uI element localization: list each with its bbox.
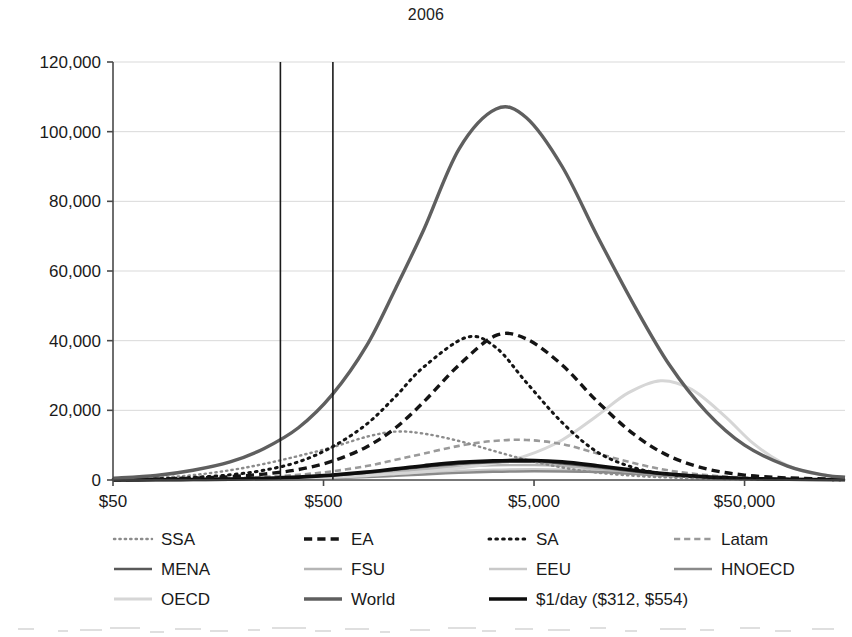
- legend-mena-swatch-icon: [112, 562, 154, 576]
- y-tick-label: 100,000: [40, 123, 101, 142]
- legend-ssa-label: SSA: [161, 531, 195, 548]
- legend-row-3: OECDWorld$1/day ($312, $554): [0, 584, 852, 614]
- y-axis-tick-labels: 020,00040,00060,00080,000100,000120,000: [40, 53, 101, 490]
- legend-hnoecd-swatch-icon: [672, 562, 714, 576]
- x-axis-tick-labels: $50$500$5,000$50,000: [99, 492, 775, 511]
- legend-eeu[interactable]: EEU: [487, 554, 571, 584]
- series-lines: [113, 107, 845, 480]
- legend-row-1: SSAEASALatam: [0, 524, 852, 554]
- legend-ea[interactable]: EA: [302, 524, 374, 554]
- chart-legend: SSAEASALatam MENAFSUEEUHNOECD OECDWorld$…: [0, 522, 852, 622]
- legend-sa-swatch-icon: [487, 532, 529, 546]
- y-tick-label: 60,000: [49, 262, 101, 281]
- legend-dollar-day-swatch-icon: [487, 592, 529, 606]
- chart-figure: 2006 020,00040,00060,00080,000100,000120…: [0, 0, 852, 637]
- legend-world-label: World: [351, 591, 395, 608]
- y-tick-label: 20,000: [49, 401, 101, 420]
- legend-mena[interactable]: MENA: [112, 554, 210, 584]
- y-tick-label: 0: [92, 471, 101, 490]
- legend-eeu-swatch-icon: [487, 562, 529, 576]
- legend-sa-label: SA: [536, 531, 559, 548]
- legend-eeu-label: EEU: [536, 561, 571, 578]
- legend-ssa-swatch-icon: [112, 532, 154, 546]
- legend-latam-label: Latam: [721, 531, 768, 548]
- legend-dollar-day-label: $1/day ($312, $554): [536, 591, 688, 608]
- legend-ssa[interactable]: SSA: [112, 524, 195, 554]
- grid-lines: [113, 62, 845, 410]
- y-tick-label: 40,000: [49, 332, 101, 351]
- legend-latam[interactable]: Latam: [672, 524, 768, 554]
- legend-ea-label: EA: [351, 531, 374, 548]
- scan-artifact-strip: [0, 624, 852, 637]
- series-line-ea: [113, 333, 845, 479]
- x-tick-label: $50: [99, 492, 127, 511]
- y-tick-label: 120,000: [40, 53, 101, 72]
- legend-fsu-label: FSU: [351, 561, 385, 578]
- y-tick-label: 80,000: [49, 192, 101, 211]
- legend-latam-swatch-icon: [672, 532, 714, 546]
- legend-row-2: MENAFSUEEUHNOECD: [0, 554, 852, 584]
- legend-world[interactable]: World: [302, 584, 395, 614]
- chart-plot-area: 020,00040,00060,00080,000100,000120,000 …: [0, 0, 852, 520]
- legend-sa[interactable]: SA: [487, 524, 559, 554]
- legend-oecd[interactable]: OECD: [112, 584, 210, 614]
- x-tick-label: $50,000: [714, 492, 775, 511]
- legend-oecd-swatch-icon: [112, 592, 154, 606]
- x-tick-label: $500: [305, 492, 343, 511]
- series-line-sa: [113, 336, 845, 479]
- series-line-world: [113, 107, 845, 478]
- legend-ea-swatch-icon: [302, 532, 344, 546]
- x-tick-label: $5,000: [508, 492, 560, 511]
- legend-world-swatch-icon: [302, 592, 344, 606]
- legend-mena-label: MENA: [161, 561, 210, 578]
- legend-fsu-swatch-icon: [302, 562, 344, 576]
- legend-fsu[interactable]: FSU: [302, 554, 385, 584]
- legend-oecd-label: OECD: [161, 591, 210, 608]
- legend-hnoecd[interactable]: HNOECD: [672, 554, 795, 584]
- legend-hnoecd-label: HNOECD: [721, 561, 795, 578]
- legend-dollar-day[interactable]: $1/day ($312, $554): [487, 584, 688, 614]
